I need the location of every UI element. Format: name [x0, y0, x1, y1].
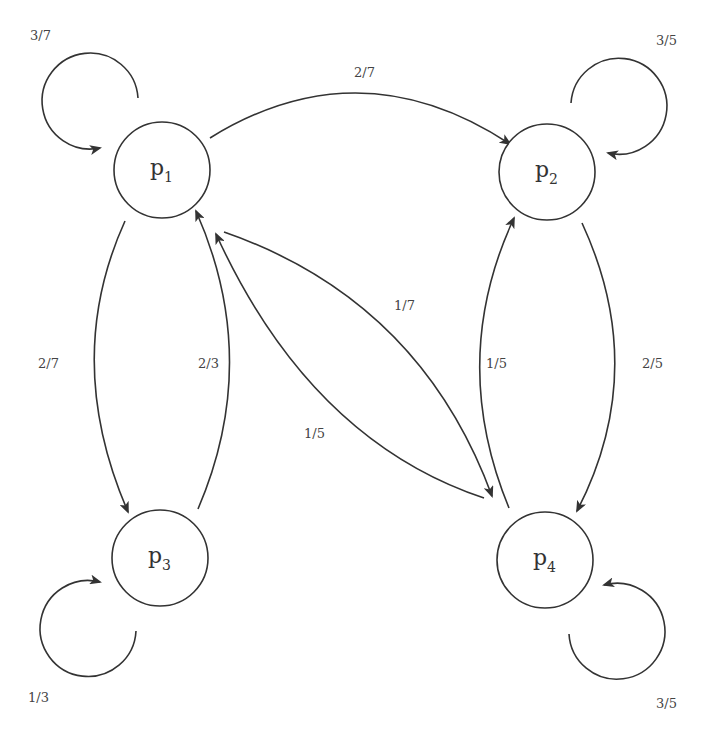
edge-p1-p2: 2/7 — [210, 65, 510, 144]
edge-p4-p4: 3/5 — [569, 583, 677, 711]
edge-label-p1-p3: 2/7 — [38, 356, 59, 371]
edge-p1-p1: 3/7 — [30, 28, 138, 149]
edge-label-p2-p4: 2/5 — [642, 356, 663, 371]
edge-label-p4-p4: 3/5 — [656, 696, 677, 711]
node-p3: p3 — [112, 510, 208, 606]
edge-p3-p3: 1/3 — [28, 580, 136, 705]
edge-p1-p4: 1/7 — [224, 232, 492, 496]
node-p2: p2 — [499, 124, 595, 220]
edge-p3-p1: 2/3 — [196, 211, 230, 509]
self-loop-arrow-p2 — [571, 58, 667, 154]
edge-arrow-p1-p4 — [224, 232, 492, 496]
markov-chain-diagram: 3/7 2/7 2/7 2/3 1/7 1/5 2/5 1/5 3/5 — [0, 0, 706, 736]
edge-label-p1-p1: 3/7 — [30, 28, 51, 43]
self-loop-arrow-p1 — [42, 53, 138, 149]
edge-p2-p2: 3/5 — [571, 33, 677, 154]
edge-label-p4-p1: 1/5 — [304, 426, 325, 441]
edge-arrow-p4-p1 — [216, 234, 484, 498]
edge-label-p4-p2: 1/5 — [486, 356, 507, 371]
edge-p4-p1: 1/5 — [216, 234, 484, 498]
edge-arrow-p1-p2 — [210, 93, 510, 144]
self-loop-arrow-p4 — [569, 583, 665, 679]
node-p1: p1 — [114, 122, 210, 218]
edge-label-p3-p3: 1/3 — [28, 690, 49, 705]
edge-label-p1-p4: 1/7 — [394, 298, 415, 313]
edge-label-p2-p2: 3/5 — [656, 33, 677, 48]
edge-p1-p3: 2/7 — [38, 221, 128, 512]
edge-p2-p4: 2/5 — [577, 223, 663, 511]
edge-arrow-p1-p3 — [94, 221, 128, 512]
edge-p4-p2: 1/5 — [480, 218, 514, 508]
self-loop-arrow-p3 — [40, 580, 136, 676]
edge-label-p1-p2: 2/7 — [354, 65, 375, 80]
edge-arrow-p2-p4 — [577, 223, 615, 511]
edge-label-p3-p1: 2/3 — [198, 356, 219, 371]
node-p4: p4 — [497, 512, 593, 608]
